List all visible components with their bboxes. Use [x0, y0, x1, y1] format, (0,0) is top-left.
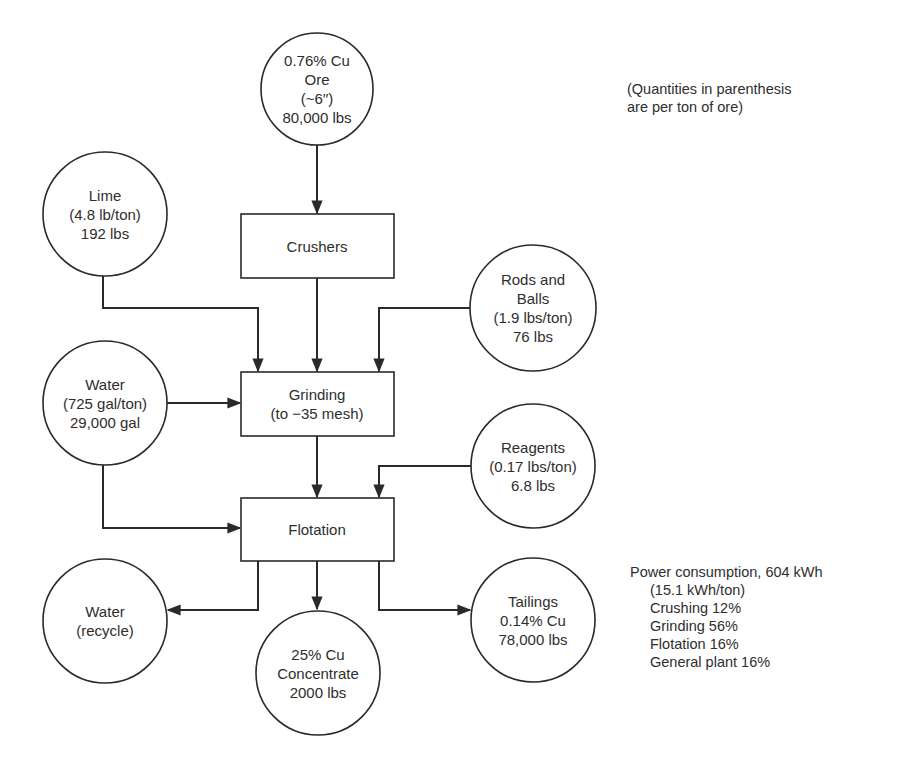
reagents-label: Reagents (0.17 lbs/ton) 6.8 lbs — [489, 438, 577, 495]
grinding-spec: (to −35 mesh) — [271, 404, 364, 423]
power-item-grinding: Grinding 56% — [630, 617, 823, 635]
rods-name-2: Balls — [493, 289, 572, 308]
power-consumption-note: Power consumption, 604 kWh (15.1 kWh/ton… — [630, 563, 823, 671]
water-recycle-name: Water — [76, 602, 134, 621]
reagents-name: Reagents — [489, 438, 577, 457]
grinding-name: Grinding — [271, 385, 364, 404]
quantities-note-line-2: are per ton of ore) — [627, 98, 791, 116]
tailings-grade: 0.14% Cu — [498, 611, 567, 630]
lime-quantity: 192 lbs — [69, 224, 141, 243]
water-recycle-note: (recycle) — [76, 621, 134, 640]
flow-reagents-to-flotation — [379, 466, 471, 497]
grinding-label: Grinding (to −35 mesh) — [271, 385, 364, 423]
rods-name-1: Rods and — [493, 270, 572, 289]
power-header: Power consumption, 604 kWh — [630, 563, 823, 581]
water-name: Water — [63, 375, 147, 394]
ore-quantity: 80,000 lbs — [282, 108, 351, 127]
concentrate-name: Concentrate — [277, 664, 359, 683]
water-rate: (725 gal/ton) — [63, 394, 147, 413]
lime-rate: (4.8 lb/ton) — [69, 205, 141, 224]
ore-name: Ore — [282, 70, 351, 89]
concentrate-grade: 25% Cu — [277, 645, 359, 664]
flotation-label: Flotation — [288, 520, 346, 539]
power-item-crushing: Crushing 12% — [630, 599, 823, 617]
water-quantity: 29,000 gal — [63, 413, 147, 432]
reagents-rate: (0.17 lbs/ton) — [489, 457, 577, 476]
lime-name: Lime — [69, 186, 141, 205]
crushers-name: Crushers — [287, 237, 348, 256]
quantities-note-line-1: (Quantities in parenthesis — [627, 80, 791, 98]
flotation-name: Flotation — [288, 520, 346, 539]
water-recycle-label: Water (recycle) — [76, 602, 134, 640]
lime-label: Lime (4.8 lb/ton) 192 lbs — [69, 186, 141, 243]
rods-balls-label: Rods and Balls (1.9 lbs/ton) 76 lbs — [493, 270, 572, 346]
ore-label: 0.76% Cu Ore (~6′′) 80,000 lbs — [282, 51, 351, 127]
ore-size: (~6′′) — [282, 89, 351, 108]
rods-quantity: 76 lbs — [493, 327, 572, 346]
concentrate-label: 25% Cu Concentrate 2000 lbs — [277, 645, 359, 702]
power-per-ton: (15.1 kWh/ton) — [630, 581, 823, 599]
flow-rods-to-grinding — [379, 308, 470, 371]
tailings-quantity: 78,000 lbs — [498, 630, 567, 649]
crushers-label: Crushers — [287, 237, 348, 256]
flow-flotation-to-tailings — [379, 561, 470, 610]
water-input-label: Water (725 gal/ton) 29,000 gal — [63, 375, 147, 432]
flow-water-to-flotation — [103, 465, 240, 528]
tailings-name: Tailings — [498, 592, 567, 611]
quantities-note: (Quantities in parenthesis are per ton o… — [627, 80, 791, 116]
concentrate-quantity: 2000 lbs — [277, 683, 359, 702]
rods-rate: (1.9 lbs/ton) — [493, 308, 572, 327]
ore-grade: 0.76% Cu — [282, 51, 351, 70]
tailings-label: Tailings 0.14% Cu 78,000 lbs — [498, 592, 567, 649]
power-item-flotation: Flotation 16% — [630, 635, 823, 653]
power-item-general-plant: General plant 16% — [630, 653, 823, 671]
flow-flotation-to-water-recycle — [168, 561, 258, 610]
reagents-quantity: 6.8 lbs — [489, 476, 577, 495]
